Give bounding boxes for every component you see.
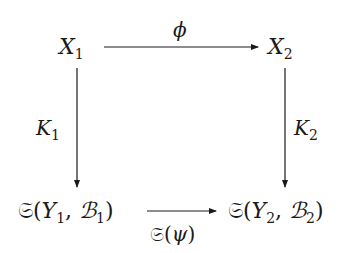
node-x2-base: X [268,34,284,59]
label-k2-sub: 2 [309,127,318,143]
label-s-psi: 𝔖(ψ) [150,222,195,246]
label-phi: ϕ [173,18,187,42]
node-s-y2-b2: 𝔖(Y2, ℬ2) [228,198,324,226]
label-k2: K2 [294,116,318,143]
var-y: Y [252,198,267,223]
var-b: ℬ [289,198,306,223]
var-b: ℬ [79,198,96,223]
sub-1: 1 [56,210,65,226]
node-x2-sub: 2 [284,46,293,62]
frak-s-symbol: 𝔖 [228,198,243,223]
sub-1: 1 [96,210,105,226]
comma: , [65,198,79,223]
node-x2: X2 [268,34,293,62]
node-s-y1-b1: 𝔖(Y1, ℬ1) [18,198,114,226]
frak-s-symbol: 𝔖 [18,198,33,223]
label-k2-base: K [294,116,309,140]
label-k1-sub: 1 [51,127,60,143]
label-k1: K1 [36,116,60,143]
frak-s-symbol: 𝔖 [150,222,164,246]
label-phi-text: ϕ [173,18,187,42]
paren-open: ( [33,198,42,223]
node-x1-base: X [59,34,75,59]
node-x1: X1 [59,34,84,62]
var-psi: ψ [172,222,188,246]
paren-open: ( [243,198,252,223]
label-k1-base: K [36,116,51,140]
paren-close: ) [105,198,114,223]
comma: , [275,198,289,223]
paren-close: ) [315,198,324,223]
var-y: Y [42,198,57,223]
sub-2: 2 [306,210,315,226]
paren-open: ( [164,222,172,246]
node-x1-sub: 1 [75,46,84,62]
paren-close: ) [188,222,196,246]
sub-2: 2 [266,210,275,226]
